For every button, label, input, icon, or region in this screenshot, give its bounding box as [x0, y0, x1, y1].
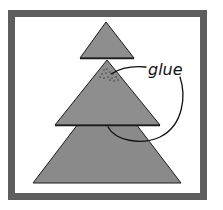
- glue-label: glue: [148, 60, 183, 79]
- middle-triangle: [55, 60, 160, 125]
- pyramid-glue-diagram: glue: [0, 0, 223, 210]
- top-triangle: [80, 22, 134, 58]
